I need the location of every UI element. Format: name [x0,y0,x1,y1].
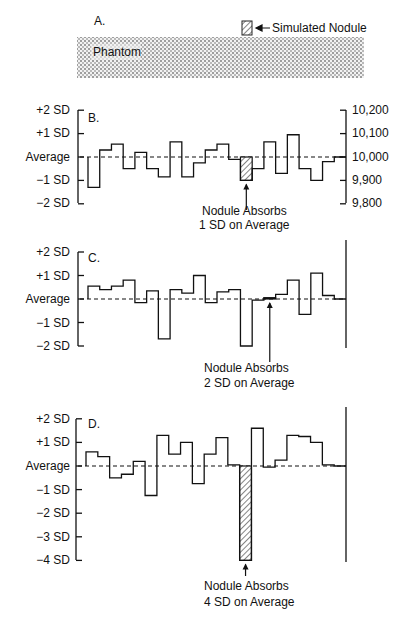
svg-text:Average: Average [26,459,71,473]
svg-text:+2 SD: +2 SD [36,412,70,426]
panel-b-right-ticks: 10,200 10,100 10,000 9,900 9,800 [352,103,389,210]
svg-text:−1 SD: −1 SD [36,316,70,330]
svg-text:−2 SD: −2 SD [36,196,70,210]
svg-text:10,000: 10,000 [352,150,389,164]
step-line [88,135,346,188]
nodule-label: Simulated Nodule [272,21,367,35]
step-line [86,428,346,560]
svg-text:−2 SD: −2 SD [36,339,70,353]
svg-text:Average: Average [26,292,71,306]
panel-c-annotation-2: 2 SD on Average [204,376,295,390]
panel-b-annotation-1: Nodule Absorbs [202,204,287,218]
svg-text:Average: Average [26,150,71,164]
svg-text:+2 SD: +2 SD [36,245,70,259]
panel-a: A. Phantom Simulated Nodule [77,14,367,78]
svg-text:+1 SD: +1 SD [36,435,70,449]
panel-c-annotation-1: Nodule Absorbs [204,361,289,375]
panel-a-label: A. [94,14,105,28]
step-line [88,273,346,346]
panel-b-label: B. [88,111,99,125]
c-plot [78,240,346,362]
svg-text:−3 SD: −3 SD [36,530,70,544]
panel-d: D. +2 SD +1 SD Average −1 SD −2 SD −3 SD… [26,407,346,609]
panel-b-left-ticks: +2 SD +1 SD Average −1 SD −2 SD [26,103,71,210]
panel-c-left-ticks: +2 SD +1 SD Average −1 SD −2 SD [26,245,71,353]
nodule-bar [240,466,252,560]
svg-text:+1 SD: +1 SD [36,126,70,140]
phantom-label: Phantom [93,45,141,59]
svg-text:−2 SD: −2 SD [36,506,70,520]
panel-d-annotation-2: 4 SD on Average [204,595,295,609]
svg-text:+1 SD: +1 SD [36,269,70,283]
b-plot [78,110,346,210]
nodule-icon [242,21,252,35]
panel-c: C. +2 SD +1 SD Average −1 SD −2 SD Nodul… [26,240,346,390]
panel-c-label: C. [88,251,100,265]
panel-d-left-ticks: +2 SD +1 SD Average −1 SD −2 SD −3 SD −4… [26,412,71,567]
figure: A. Phantom Simulated Nodule B. +2 SD +1 … [0,0,403,624]
arrow-left-icon [256,25,270,31]
panel-d-label: D. [88,417,100,431]
svg-text:10,100: 10,100 [352,126,389,140]
svg-text:−1 SD: −1 SD [36,483,70,497]
svg-text:10,200: 10,200 [352,103,389,117]
svg-text:−1 SD: −1 SD [36,173,70,187]
svg-text:+2 SD: +2 SD [36,103,70,117]
d-plot [76,407,346,576]
svg-text:9,800: 9,800 [352,196,382,210]
panel-b: B. +2 SD +1 SD Average −1 SD −2 SD 10,20… [26,103,390,232]
panel-d-annotation-1: Nodule Absorbs [204,579,289,593]
svg-text:−4 SD: −4 SD [36,553,70,567]
svg-text:9,900: 9,900 [352,173,382,187]
panel-b-annotation-2: 1 SD on Average [199,218,290,232]
nodule-bar [240,157,252,180]
